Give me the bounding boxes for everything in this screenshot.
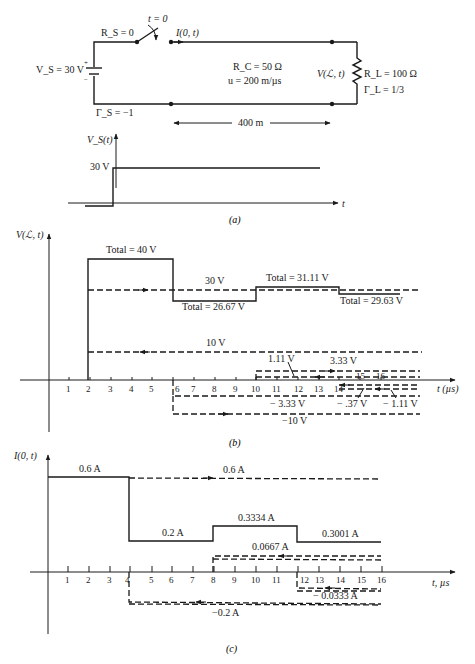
- label-0-0667a: 0.0667 A: [252, 541, 289, 552]
- step-waveform: [85, 168, 320, 206]
- caption-a: (a): [229, 214, 241, 226]
- label-minus-0-0333a: − 0.0333 A: [313, 590, 359, 601]
- svg-text:4: 4: [129, 384, 134, 394]
- source-top-wire: [94, 42, 137, 67]
- svg-text:8: 8: [211, 575, 216, 585]
- svg-text:12: 12: [300, 575, 309, 585]
- svg-text:13: 13: [315, 575, 325, 585]
- transmission-line-figure: + − t = 0 R_S = 0 I(0, t) V_S = 30 V Γ_S…: [0, 0, 475, 664]
- label-total-31-11v: Total = 31.11 V: [266, 272, 329, 283]
- svg-text:11: 11: [272, 575, 281, 585]
- voltage-tick-labels: 12 34 56 78 910 1112 1314 1516: [66, 371, 386, 394]
- svg-text:3: 3: [107, 575, 112, 585]
- label-0-3001a: 0.3001 A: [322, 528, 359, 539]
- label-total-0-6a: 0.6 A: [79, 463, 101, 474]
- wave-0-0667a: [213, 556, 381, 572]
- source-reflection-label: Γ_S = −1: [96, 107, 134, 118]
- svg-text:8: 8: [212, 384, 217, 394]
- label-0-2a: 0.2 A: [162, 527, 184, 538]
- label-minus-0-37v: − .37 V: [337, 398, 368, 409]
- svg-text:9: 9: [232, 575, 237, 585]
- label-minus-0-2a: −0.2 A: [212, 607, 240, 618]
- label-0-3334a: 0.3334 A: [238, 512, 275, 523]
- svg-text:15: 15: [356, 371, 366, 381]
- voltage-ylabel: V(ℒ, t): [16, 229, 44, 241]
- current-xlabel: t, µs: [432, 577, 450, 588]
- svg-text:−: −: [84, 76, 88, 84]
- svg-text:2: 2: [86, 384, 91, 394]
- label-10v: 10 V: [206, 337, 226, 348]
- wave-3-33v: [256, 371, 420, 380]
- voltage-xlabel: t (µs): [437, 383, 459, 395]
- switch-label: t = 0: [148, 13, 168, 24]
- svg-text:1: 1: [66, 384, 71, 394]
- source-resistance-label: R_S = 0: [101, 27, 134, 38]
- svg-text:5: 5: [149, 575, 154, 585]
- waveform-level-label: 30 V: [90, 161, 110, 172]
- source-waveform: V_S(t) 30 V t (a): [68, 134, 345, 226]
- svg-text:16: 16: [376, 371, 386, 381]
- svg-text:7: 7: [190, 575, 195, 585]
- svg-text:12: 12: [294, 384, 303, 394]
- svg-text:6: 6: [175, 384, 180, 394]
- label-minus-1-11v: − 1.11 V: [383, 398, 419, 409]
- svg-text:1: 1: [65, 575, 70, 585]
- label-total-26-67v: Total = 26.67 V: [182, 301, 246, 312]
- caption-c: (c): [226, 643, 238, 655]
- line-velocity-label: u = 200 m/µs: [228, 75, 281, 86]
- svg-text:6: 6: [169, 575, 174, 585]
- svg-text:16: 16: [377, 575, 387, 585]
- current-chart: 12 34 56 78 910 1112 1314 1516 I(0, t) t…: [13, 450, 455, 655]
- bottom-wire: [94, 76, 357, 104]
- caption-b: (b): [229, 437, 241, 449]
- load-voltage-label: V(ℒ, t): [317, 68, 345, 80]
- current-tick-labels: 12 34 56 78 910 1112 1314 1516: [65, 575, 387, 585]
- load-resistance-label: R_L = 100 Ω: [364, 68, 417, 79]
- current-x-ticks: [68, 566, 382, 572]
- label-3-33v: 3.33 V: [330, 355, 358, 366]
- switch-blade: [137, 28, 158, 42]
- current-ylabel: I(0, t): [13, 450, 37, 462]
- source-voltage-label: V_S = 30 V: [36, 64, 85, 75]
- load-bottom-dot: [330, 102, 334, 106]
- current-label: I(0, t): [175, 27, 199, 39]
- waveform-ylabel: V_S(t): [87, 134, 113, 146]
- svg-text:13: 13: [314, 384, 324, 394]
- svg-text:11: 11: [272, 384, 281, 394]
- svg-text:2: 2: [86, 575, 91, 585]
- line-impedance-label: R_C = 50 Ω: [233, 61, 282, 72]
- wave-0-6a: [129, 478, 381, 479]
- load-top-dot: [330, 40, 334, 44]
- waveform-xlabel: t: [342, 198, 345, 209]
- load-resistor-icon: [353, 42, 361, 104]
- svg-text:3: 3: [108, 384, 113, 394]
- svg-text:10: 10: [251, 575, 261, 585]
- line-length-label: 400 m: [238, 117, 264, 128]
- svg-text:+: +: [84, 59, 88, 67]
- svg-text:14: 14: [336, 575, 346, 585]
- circuit-diagram: + − t = 0 R_S = 0 I(0, t) V_S = 30 V Γ_S…: [36, 13, 417, 128]
- svg-text:15: 15: [357, 575, 367, 585]
- voltage-chart: 12 34 56 78 910 1112 1314 1516 V(ℒ, t): [16, 229, 459, 449]
- label-total-29-63v: Total = 29.63 V: [340, 295, 404, 306]
- svg-text:7: 7: [191, 384, 196, 394]
- label-minus-10v: −10 V: [282, 415, 308, 426]
- label-1-11v: 1.11 V: [268, 353, 295, 364]
- label-30v: 30 V: [205, 275, 225, 286]
- label-wave-0-6a: 0.6 A: [223, 464, 245, 475]
- svg-text:10: 10: [251, 384, 261, 394]
- label-minus-3-33v: − 3.33 V: [270, 398, 306, 409]
- svg-text:5: 5: [149, 384, 154, 394]
- label-total-40v: Total = 40 V: [106, 244, 157, 255]
- svg-text:9: 9: [233, 384, 238, 394]
- load-reflection-label: Γ_L = 1/3: [364, 84, 404, 95]
- line-bottom-dot: [169, 102, 173, 106]
